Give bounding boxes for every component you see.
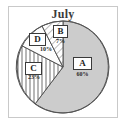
- pie-label-d: D: [29, 33, 46, 46]
- pie-percent-a: 60%: [70, 71, 95, 78]
- pie-label-b: B: [53, 25, 68, 38]
- pie-percent-c: 23%: [22, 74, 46, 81]
- pie-percent-d: 10%: [38, 46, 54, 53]
- chart-title: July: [0, 8, 126, 21]
- figure-container: July A 60% B 7% C 23%: [0, 0, 126, 126]
- pie-label-a: A: [73, 57, 92, 70]
- pie-percent-b: 7%: [52, 38, 69, 45]
